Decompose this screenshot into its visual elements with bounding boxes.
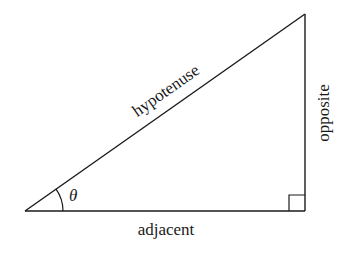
right-angle-marker — [289, 195, 305, 211]
hypotenuse-side — [25, 14, 305, 211]
adjacent-label: adjacent — [138, 220, 195, 239]
angle-arc — [56, 189, 63, 211]
triangle-svg: θ hypotenuse opposite adjacent — [0, 0, 354, 254]
opposite-label: opposite — [314, 84, 333, 142]
right-triangle-diagram: θ hypotenuse opposite adjacent — [0, 0, 354, 254]
angle-theta-label: θ — [69, 186, 77, 205]
